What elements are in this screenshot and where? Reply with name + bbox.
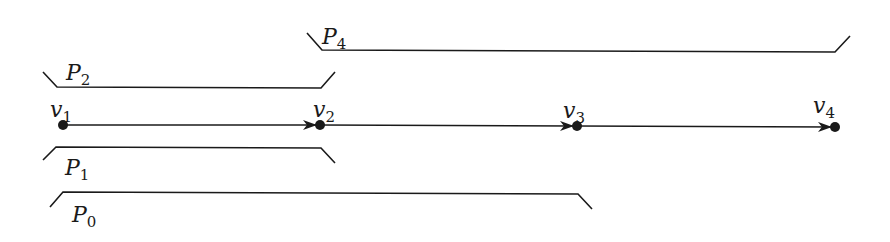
path-label-p4: P4 (321, 24, 346, 53)
edge-v3-v4 (577, 126, 831, 127)
vertex-label-v4: v4 (813, 93, 835, 122)
path-diagram: P4 P2 v1 v2 v3 v4 P1 P0 (0, 0, 890, 242)
vertex-v4 (830, 122, 840, 132)
path-bracket-p0: P0 (50, 192, 592, 231)
path-bracket-p2: P2 (43, 60, 335, 89)
vertex-label-v2: v2 (313, 97, 335, 126)
vertex-label-v1: v1 (50, 97, 72, 126)
path-bracket-p4: P4 (307, 24, 850, 53)
path-label-p1: P1 (64, 155, 89, 184)
path-label-p2: P2 (65, 60, 90, 89)
edges (63, 125, 831, 127)
path-bracket-p1: P1 (43, 147, 335, 184)
vertex-label-v3: v3 (563, 98, 585, 127)
edge-v2-v3 (320, 125, 573, 126)
path-label-p0: P0 (71, 202, 96, 231)
